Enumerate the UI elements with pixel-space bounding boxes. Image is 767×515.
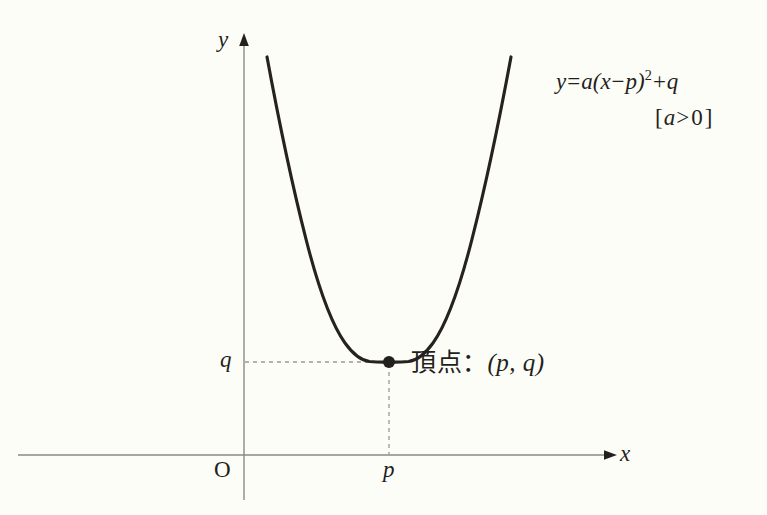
condition-greater-than-sign: > [675, 105, 690, 130]
equation-parameter-q: q [667, 69, 679, 94]
condition-variable-a: a [664, 105, 676, 130]
equation-lhs-y: y [556, 69, 566, 94]
condition-zero: 0 [690, 105, 704, 130]
equation-exponent-two: 2 [645, 67, 652, 83]
vertex-annotation-text: 頂点： [411, 348, 488, 377]
vertex-annotation: 頂点：(p, q) [411, 350, 545, 375]
equation-condition: [a>0] [654, 106, 713, 129]
x-tick-label-p: p [383, 458, 395, 481]
vertex-point-marker [383, 356, 395, 368]
equation-minus-sign: − [611, 69, 626, 94]
equation-plus-sign: + [652, 69, 667, 94]
equation-vertex-form: y=a(x−p)2+q [556, 68, 678, 93]
origin-label: O [214, 458, 231, 481]
condition-bracket-close: ] [704, 105, 714, 130]
vertex-paren-open: ( [488, 349, 497, 376]
vertex-paren-close: ) [536, 349, 545, 376]
axis-label-x: x [620, 442, 630, 465]
condition-bracket-open: [ [654, 105, 664, 130]
y-tick-label-q: q [220, 348, 232, 371]
equation-parameter-p: p [626, 69, 638, 94]
quadratic-vertex-figure: y x O p q 頂点：(p, q) y=a(x−p)2+q [a>0] [0, 0, 767, 515]
equation-equals-sign: = [566, 69, 581, 94]
equation-coefficient-a: a [581, 69, 593, 94]
x-axis-arrow-icon [604, 450, 617, 460]
equation-variable-x: x [600, 69, 610, 94]
equation-paren-close: ) [637, 69, 645, 94]
axis-label-y: y [218, 28, 228, 51]
y-axis-arrow-icon [239, 33, 249, 46]
vertex-coord-separator: , [509, 349, 523, 376]
vertex-coord-y: q [523, 349, 536, 376]
vertex-coord-x: p [496, 349, 509, 376]
parabola-curve [267, 57, 511, 362]
